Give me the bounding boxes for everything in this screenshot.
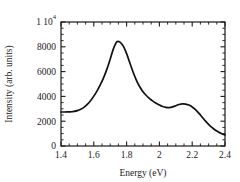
x-tick-label: 2.2 bbox=[186, 150, 198, 160]
y-tick-label: 4000 bbox=[37, 92, 56, 102]
x-tick-label: 1.4 bbox=[55, 150, 67, 160]
x-tick-label: 2 bbox=[157, 150, 162, 160]
x-tick-label: 1.8 bbox=[121, 150, 133, 160]
y-tick-label: 2000 bbox=[37, 117, 56, 127]
x-tick-label: 1.6 bbox=[88, 150, 100, 160]
x-axis-title: Energy (eV) bbox=[119, 168, 166, 179]
y-tick-label: 6000 bbox=[37, 67, 56, 77]
spectrum-plot: 1.41.61.822.22.4 020004000600080001 104 … bbox=[0, 0, 240, 182]
y-tick-label: 8000 bbox=[37, 42, 56, 52]
x-tick-label: 2.4 bbox=[219, 150, 231, 160]
y-axis-title: Intensity (arb. units) bbox=[4, 45, 15, 122]
chart-figure: 1.41.61.822.22.4 020004000600080001 104 … bbox=[0, 0, 240, 182]
y-tick-label: 0 bbox=[51, 141, 56, 151]
